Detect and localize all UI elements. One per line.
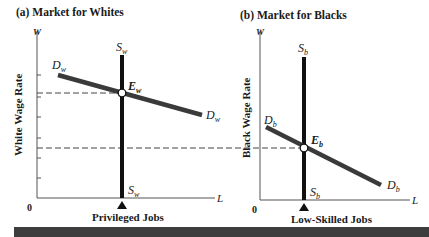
panel-a-demand-left-label: Dw [52,58,66,73]
panel-b-equilibrium-label: Eb [311,133,323,148]
panel-b-y-axis-label: Black Wage Rate [240,78,252,158]
panel-b-x-symbol: L [412,194,418,206]
panel-b-jobs-marker-icon [299,203,309,211]
panel-b-demand-line [266,127,381,185]
panel-a-supply-bottom-label: Sw [128,183,139,198]
panel-a-y-symbol: W [33,27,41,37]
panel-b-y-symbol: W [256,27,264,37]
panel-a-equilibrium-point [118,89,126,97]
panel-b-supply-top-label: Sb [298,41,308,56]
panel-a-demand-right-label: Dw [206,108,220,123]
panel-b-demand-right-label: Db [387,178,400,193]
panel-b-x-axis-label: Low-Skilled Jobs [291,213,372,225]
panel-a-x-symbol: L [217,192,223,204]
panel-b-equilibrium-point [300,144,308,152]
panel-b-origin-label: 0 [252,204,257,215]
panel-a-equilibrium-label: Ew [128,79,141,94]
panel-a-jobs-marker-icon [117,201,127,209]
panel-a-x-axis-label: Privileged Jobs [92,211,164,223]
panel-a-y-ticks [37,75,41,178]
panel-b-supply-bottom-label: Sb [310,185,320,200]
panel-a-y-axis-label: White Wage Rate [12,74,24,156]
bottom-bar [14,227,429,237]
panel-a-origin-label: 0 [27,202,32,213]
panel-b-demand-left-label: Db [264,113,277,128]
panel-a-supply-top-label: Sw [116,40,127,55]
